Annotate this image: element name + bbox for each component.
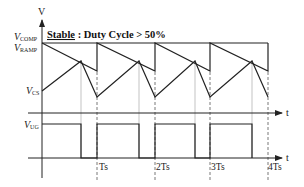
tick-3ts: 3Ts: [211, 162, 225, 172]
diagram-title: Stable : Duty Cycle > 50%: [47, 29, 166, 40]
lower-t-label: t: [286, 152, 289, 163]
v-comp-label: VCOMP: [14, 31, 38, 42]
v-ug-label: VUG: [24, 119, 39, 130]
period-guides: [97, 72, 268, 180]
y-axis-label: V: [38, 6, 46, 17]
v-ramp-label: VRAMP: [14, 42, 38, 53]
peak-guides: [81, 60, 252, 158]
tick-4ts: 4Ts: [268, 162, 282, 172]
v-ramp-waveform: [42, 43, 268, 71]
v-cs-label: VCS: [26, 85, 39, 96]
tick-2ts: 2Ts: [156, 162, 170, 172]
upper-t-label: t: [286, 107, 289, 118]
duty-cycle-diagram: V Stable : Duty Cycle > 50% VCOMP VRAMP …: [0, 0, 304, 187]
v-ug-waveform: [42, 124, 252, 158]
tick-ts: Ts: [99, 162, 108, 172]
